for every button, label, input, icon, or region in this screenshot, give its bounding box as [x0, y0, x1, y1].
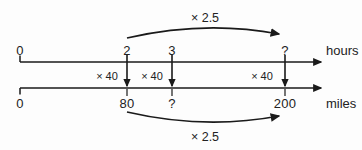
bottom-axis-unit-label: miles — [326, 97, 356, 110]
diagram-artwork — [0, 0, 362, 150]
top-axis-unit-label: hours — [326, 44, 359, 57]
double-number-line-diagram: × 2.5 0 2 3 ? hours × 40 × 40 × 40 0 80 … — [0, 0, 362, 150]
top-arc-label: × 2.5 — [191, 12, 219, 25]
top-tick-label-0: 0 — [16, 44, 23, 57]
multiplier-label-3: × 40 — [251, 71, 273, 82]
bottom-number-line — [20, 88, 321, 95]
bottom-tick-label-0: 0 — [16, 97, 23, 110]
top-tick-label-unknown: ? — [281, 44, 288, 57]
bottom-tick-label-80: 80 — [120, 97, 135, 110]
top-tick-label-3: 3 — [168, 44, 175, 57]
bottom-tick-label-200: 200 — [274, 97, 296, 110]
multiplier-label-2: × 40 — [141, 71, 163, 82]
top-tick-label-2: 2 — [123, 44, 130, 57]
bottom-arc-path — [127, 112, 279, 122]
bottom-tick-label-unknown: ? — [168, 97, 175, 110]
bottom-arc-label: × 2.5 — [191, 131, 219, 144]
multiplier-label-1: × 40 — [96, 71, 118, 82]
top-arc-path — [127, 28, 279, 38]
